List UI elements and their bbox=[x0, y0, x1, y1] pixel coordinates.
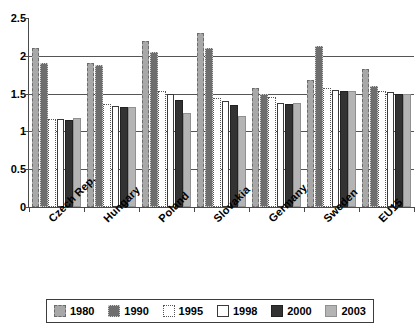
legend-swatch-2003-icon bbox=[325, 305, 337, 317]
bar bbox=[48, 119, 56, 207]
legend-label: 1995 bbox=[179, 306, 203, 317]
legend-label: 2000 bbox=[287, 306, 311, 317]
bar bbox=[395, 94, 403, 207]
bar bbox=[150, 52, 158, 207]
legend-label: 1998 bbox=[233, 306, 257, 317]
bar bbox=[222, 101, 230, 207]
legend-item-2003[interactable]: 2003 bbox=[325, 305, 365, 317]
bar bbox=[40, 63, 48, 207]
bar bbox=[112, 106, 120, 207]
legend-swatch-1998-icon bbox=[217, 305, 229, 317]
bar bbox=[370, 86, 378, 207]
bar bbox=[167, 94, 175, 207]
bar bbox=[213, 98, 221, 207]
bar bbox=[362, 69, 370, 207]
legend-item-1990[interactable]: 1990 bbox=[108, 305, 148, 317]
bar-group bbox=[249, 18, 304, 207]
bar bbox=[268, 97, 276, 207]
bar bbox=[260, 94, 268, 207]
bar bbox=[277, 103, 285, 207]
legend-label: 2003 bbox=[341, 306, 365, 317]
bar bbox=[387, 92, 395, 207]
bar bbox=[323, 88, 331, 207]
y-axis-tick-labels: 00.511.522.5 bbox=[0, 18, 26, 207]
bar bbox=[142, 41, 150, 207]
legend-label: 1980 bbox=[70, 306, 94, 317]
bar-group bbox=[194, 18, 249, 207]
legend-swatch-1980-icon bbox=[54, 305, 66, 317]
bar bbox=[403, 94, 411, 207]
y-axis-tick-label: 0 bbox=[0, 202, 26, 213]
y-axis-tick-label: 1.5 bbox=[0, 88, 26, 99]
bar-group bbox=[139, 18, 194, 207]
y-axis-tick-label: 2.5 bbox=[0, 13, 26, 24]
bar bbox=[205, 48, 213, 207]
bar bbox=[315, 46, 323, 207]
bar bbox=[32, 48, 40, 207]
legend-swatch-1995-icon bbox=[163, 305, 175, 317]
legend-item-1995[interactable]: 1995 bbox=[163, 305, 203, 317]
bar-chart: 00.511.522.5 Czech Rep.HungaryPolandSlov… bbox=[0, 0, 418, 329]
bar bbox=[57, 119, 65, 207]
legend-item-1998[interactable]: 1998 bbox=[217, 305, 257, 317]
legend-label: 1990 bbox=[124, 306, 148, 317]
legend-swatch-1990-icon bbox=[108, 305, 120, 317]
legend-swatch-2000-icon bbox=[271, 305, 283, 317]
bar bbox=[197, 33, 205, 207]
legend-item-1980[interactable]: 1980 bbox=[54, 305, 94, 317]
bar bbox=[158, 91, 166, 207]
chart-legend: 198019901995199820002003 bbox=[46, 299, 374, 323]
y-axis-tick-label: 1 bbox=[0, 126, 26, 137]
bar-group bbox=[359, 18, 414, 207]
y-axis-tick-label: 2 bbox=[0, 50, 26, 61]
bar bbox=[95, 65, 103, 207]
legend-item-2000[interactable]: 2000 bbox=[271, 305, 311, 317]
bar bbox=[332, 90, 340, 207]
bar-group bbox=[29, 18, 84, 207]
bar bbox=[252, 88, 260, 207]
bar-group bbox=[304, 18, 359, 207]
y-axis-tick-label: 0.5 bbox=[0, 164, 26, 175]
x-axis-category-labels: Czech Rep.HungaryPolandSlovakiaGermanySw… bbox=[0, 212, 418, 292]
bar bbox=[103, 104, 111, 207]
bar bbox=[378, 91, 386, 207]
